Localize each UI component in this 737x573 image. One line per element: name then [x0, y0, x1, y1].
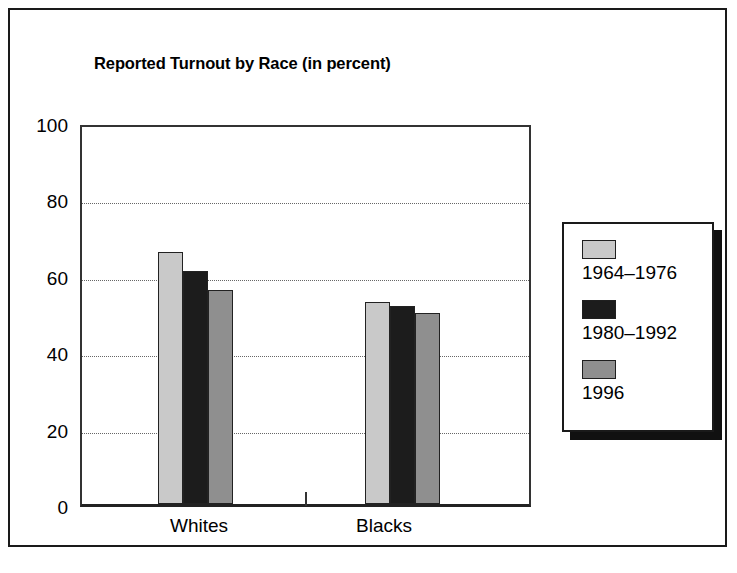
gridline-20	[82, 433, 529, 434]
x-tick-whites: Whites	[170, 515, 228, 537]
x-tick-blacks: Blacks	[356, 515, 412, 537]
bar-whites-1964-1976[interactable]	[158, 252, 183, 504]
legend-swatch-1964-1976	[582, 240, 616, 259]
gridline-60	[82, 280, 529, 281]
legend-box: 1964–1976 1980–1992 1996	[562, 222, 714, 432]
bar-group-whites	[158, 127, 236, 504]
bar-group-blacks	[365, 127, 443, 504]
gridline-80	[82, 203, 529, 204]
y-tick-100: 100	[16, 116, 68, 135]
y-tick-20: 20	[16, 421, 68, 440]
y-tick-40: 40	[16, 345, 68, 364]
legend-label-1980-1992: 1980–1992	[582, 322, 677, 344]
chart-title: Reported Turnout by Race (in percent)	[94, 54, 391, 73]
y-tick-80: 80	[16, 192, 68, 211]
bar-whites-1980-1992[interactable]	[183, 271, 208, 504]
bar-blacks-1996[interactable]	[415, 313, 440, 504]
legend-entry-1964-1976[interactable]: 1964–1976	[582, 240, 677, 284]
bar-blacks-1964-1976[interactable]	[365, 302, 390, 504]
bar-blacks-1980-1992[interactable]	[390, 306, 415, 504]
bar-whites-1996[interactable]	[208, 290, 233, 504]
figure-frame: Reported Turnout by Race (in percent) 10…	[8, 8, 727, 547]
legend-label-1996: 1996	[582, 382, 624, 404]
y-tick-0: 0	[16, 498, 68, 517]
legend-swatch-1996	[582, 360, 616, 379]
legend-entry-1996[interactable]: 1996	[582, 360, 624, 404]
plot-area	[80, 125, 531, 507]
x-axis-tick-mark	[305, 492, 307, 506]
y-tick-60: 60	[16, 268, 68, 287]
gridline-40	[82, 356, 529, 357]
legend-label-1964-1976: 1964–1976	[582, 262, 677, 284]
legend-swatch-1980-1992	[582, 300, 616, 319]
legend-entry-1980-1992[interactable]: 1980–1992	[582, 300, 677, 344]
y-axis-tick-labels: 100 80 60 40 20 0	[10, 125, 68, 507]
